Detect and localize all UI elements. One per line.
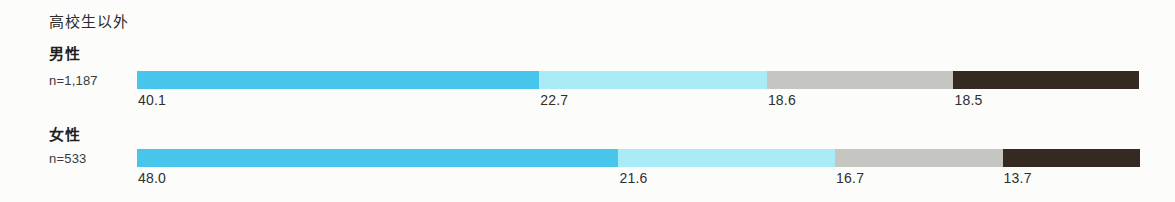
segment-value-label: 22.7	[539, 92, 568, 108]
segment-value-label: 13.7	[1003, 170, 1032, 186]
group-label-male: 男性	[49, 42, 81, 63]
bar-segment	[137, 71, 539, 89]
bar-segment	[1003, 149, 1140, 167]
bar-segment	[539, 71, 767, 89]
segment-value-label: 18.6	[767, 92, 796, 108]
group-label-female: 女性	[49, 123, 81, 144]
sample-size-label: n=1,187	[49, 73, 98, 88]
bar-segment	[835, 149, 1003, 167]
segment-value-label: 16.7	[835, 170, 864, 186]
bar-segment	[767, 71, 954, 89]
segment-value-label: 48.0	[137, 170, 166, 186]
bar-segment	[618, 149, 835, 167]
chart-title: 高校生以外	[49, 10, 129, 31]
bar-segment	[137, 149, 618, 167]
stacked-bar-row	[137, 149, 1140, 167]
sample-size-label: n=533	[49, 151, 87, 166]
stacked-bar-chart: 高校生以外 男性n=1,18740.122.718.618.5女性n=53348…	[0, 0, 1175, 202]
value-labels-row: 40.122.718.618.5	[137, 92, 1140, 109]
value-labels-row: 48.021.616.713.7	[137, 170, 1140, 187]
segment-value-label: 18.5	[953, 92, 982, 108]
bar-segment	[953, 71, 1139, 89]
segment-value-label: 40.1	[137, 92, 166, 108]
stacked-bar-row	[137, 71, 1140, 89]
segment-value-label: 21.6	[618, 170, 647, 186]
